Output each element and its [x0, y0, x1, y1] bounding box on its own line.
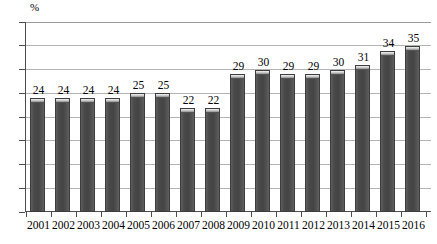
bar[interactable] — [55, 98, 70, 212]
bar[interactable] — [380, 51, 395, 213]
y-axis-tick-mark — [19, 188, 25, 189]
x-axis-tick-label: 2013 — [326, 218, 351, 232]
bar[interactable] — [80, 98, 95, 212]
bar-item[interactable]: 35 — [401, 22, 426, 212]
bar[interactable] — [280, 74, 295, 212]
bar-highlight-cap — [381, 52, 394, 56]
bar-value-label: 29 — [276, 60, 301, 72]
bar[interactable] — [105, 98, 120, 212]
bar-highlight-cap — [106, 99, 119, 103]
bar-item[interactable]: 29 — [226, 22, 251, 212]
bar-value-label: 25 — [151, 79, 176, 91]
bar-item[interactable]: 29 — [276, 22, 301, 212]
x-axis-tick-mark — [251, 212, 252, 217]
bar-item[interactable]: 30 — [251, 22, 276, 212]
bar-item[interactable]: 29 — [301, 22, 326, 212]
x-axis-tick-label: 2007 — [176, 218, 201, 232]
bar-value-label: 22 — [176, 94, 201, 106]
y-axis-tick: 0 — [0, 212, 25, 213]
x-axis: 2001200220032004200520062007200820092010… — [25, 212, 431, 244]
x-axis-tick-mark — [101, 212, 102, 217]
x-axis-tick-label: 2003 — [76, 218, 101, 232]
bar-highlight-cap — [31, 99, 44, 103]
y-axis-tick-mark — [19, 22, 25, 23]
bar-value-label: 24 — [101, 84, 126, 96]
x-axis-tick-mark — [76, 212, 77, 217]
bar[interactable] — [30, 98, 45, 212]
bar-highlight-cap — [156, 94, 169, 98]
y-axis-tick: 40 — [0, 22, 25, 23]
x-axis-tick-mark — [301, 212, 302, 217]
x-axis-tick-mark — [401, 212, 402, 217]
x-axis-tick-label: 2004 — [101, 218, 126, 232]
x-axis-tick-label: 2011 — [276, 218, 301, 232]
y-axis-tick-mark — [19, 140, 25, 141]
bar-highlight-cap — [406, 47, 419, 51]
x-axis-tick-label: 2014 — [351, 218, 376, 232]
bar-highlight-cap — [281, 75, 294, 79]
bar[interactable] — [355, 65, 370, 212]
bar[interactable] — [230, 74, 245, 212]
x-axis-tick-label: 2010 — [251, 218, 276, 232]
bar-item[interactable]: 24 — [26, 22, 51, 212]
bar-value-label: 29 — [226, 60, 251, 72]
x-axis-tick-mark — [201, 212, 202, 217]
y-axis-tick: 35 — [0, 45, 25, 46]
bar-value-label: 30 — [326, 56, 351, 68]
bar-series: 24242424252522222930292930313435 — [26, 22, 431, 212]
y-axis-tick-mark — [19, 45, 25, 46]
x-axis-tick-mark — [351, 212, 352, 217]
y-axis-tick-mark — [19, 117, 25, 118]
bar-item[interactable]: 24 — [76, 22, 101, 212]
bar[interactable] — [305, 74, 320, 212]
x-axis-tick-mark — [151, 212, 152, 217]
bar[interactable] — [180, 108, 195, 213]
bar-item[interactable]: 22 — [176, 22, 201, 212]
y-axis-tick: 15 — [0, 140, 25, 141]
x-axis-tick-mark — [176, 212, 177, 217]
y-axis-tick-mark — [19, 93, 25, 94]
bar-item[interactable]: 25 — [126, 22, 151, 212]
bar-highlight-cap — [206, 109, 219, 113]
bar-chart: % 0510152025303540 242424242525222229302… — [0, 0, 437, 244]
bar-item[interactable]: 31 — [351, 22, 376, 212]
bar[interactable] — [205, 108, 220, 213]
bar-item[interactable]: 25 — [151, 22, 176, 212]
x-axis-tick-mark — [276, 212, 277, 217]
bar-item[interactable]: 30 — [326, 22, 351, 212]
bar-item[interactable]: 24 — [51, 22, 76, 212]
bar-value-label: 34 — [376, 37, 401, 49]
bar[interactable] — [255, 70, 270, 213]
x-axis-tick-mark — [26, 212, 27, 217]
x-axis-tick-mark — [426, 212, 427, 217]
y-axis-tick: 5 — [0, 188, 25, 189]
bar-value-label: 22 — [201, 94, 226, 106]
x-axis-tick-mark — [376, 212, 377, 217]
x-axis-tick-label: 2012 — [301, 218, 326, 232]
bar-item[interactable]: 22 — [201, 22, 226, 212]
bar-highlight-cap — [331, 71, 344, 75]
bar[interactable] — [155, 93, 170, 212]
bar[interactable] — [330, 70, 345, 213]
bar-highlight-cap — [231, 75, 244, 79]
bar-value-label: 35 — [401, 32, 426, 44]
x-axis-tick-mark — [126, 212, 127, 217]
x-axis-tick-label: 2009 — [226, 218, 251, 232]
bar[interactable] — [405, 46, 420, 212]
x-axis-tick-label: 2016 — [401, 218, 426, 232]
x-axis-tick-label: 2001 — [26, 218, 51, 232]
x-axis-tick-mark — [51, 212, 52, 217]
bar-item[interactable]: 24 — [101, 22, 126, 212]
x-axis-tick-mark — [326, 212, 327, 217]
bar-item[interactable]: 34 — [376, 22, 401, 212]
bar-highlight-cap — [356, 66, 369, 70]
x-axis-tick-label: 2002 — [51, 218, 76, 232]
bar-value-label: 31 — [351, 51, 376, 63]
x-axis-tick-label: 2008 — [201, 218, 226, 232]
y-axis-unit-label: % — [30, 1, 39, 13]
bar-value-label: 24 — [76, 84, 101, 96]
x-axis-tick-label: 2015 — [376, 218, 401, 232]
bar-highlight-cap — [56, 99, 69, 103]
y-axis-tick: 10 — [0, 164, 25, 165]
bar[interactable] — [130, 93, 145, 212]
